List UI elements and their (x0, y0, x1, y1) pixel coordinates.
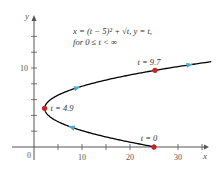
x-tick-label: 10 (78, 153, 86, 162)
x-tick-label: 20 (126, 153, 134, 162)
equation-label: x = (t − 5)² + √t, y = t, for 0 ≤ t < ∞ (73, 26, 152, 47)
marked-point (151, 144, 156, 149)
point-label: t = 4.9 (51, 103, 75, 113)
x-tick-label: 30 (174, 153, 182, 162)
equation-line-1: x = (t − 5)² + √t, y = t, (73, 26, 152, 37)
x-axis-label: x (202, 151, 207, 161)
x-axis-arrow-icon (204, 145, 209, 150)
y-axis-arrow-icon (32, 15, 37, 21)
point-label: t = 0 (141, 133, 158, 143)
equation-line-2: for 0 ≤ t < ∞ (73, 37, 152, 48)
origin-label: 0 (27, 151, 31, 160)
marked-point (152, 68, 157, 73)
point-label: t = 9.7 (137, 57, 161, 67)
direction-arrow-icon (67, 124, 75, 131)
direction-arrow-icon (73, 84, 81, 91)
marked-point (42, 106, 47, 111)
y-tick-label: 10 (20, 64, 28, 73)
y-axis-label: y (24, 11, 29, 21)
